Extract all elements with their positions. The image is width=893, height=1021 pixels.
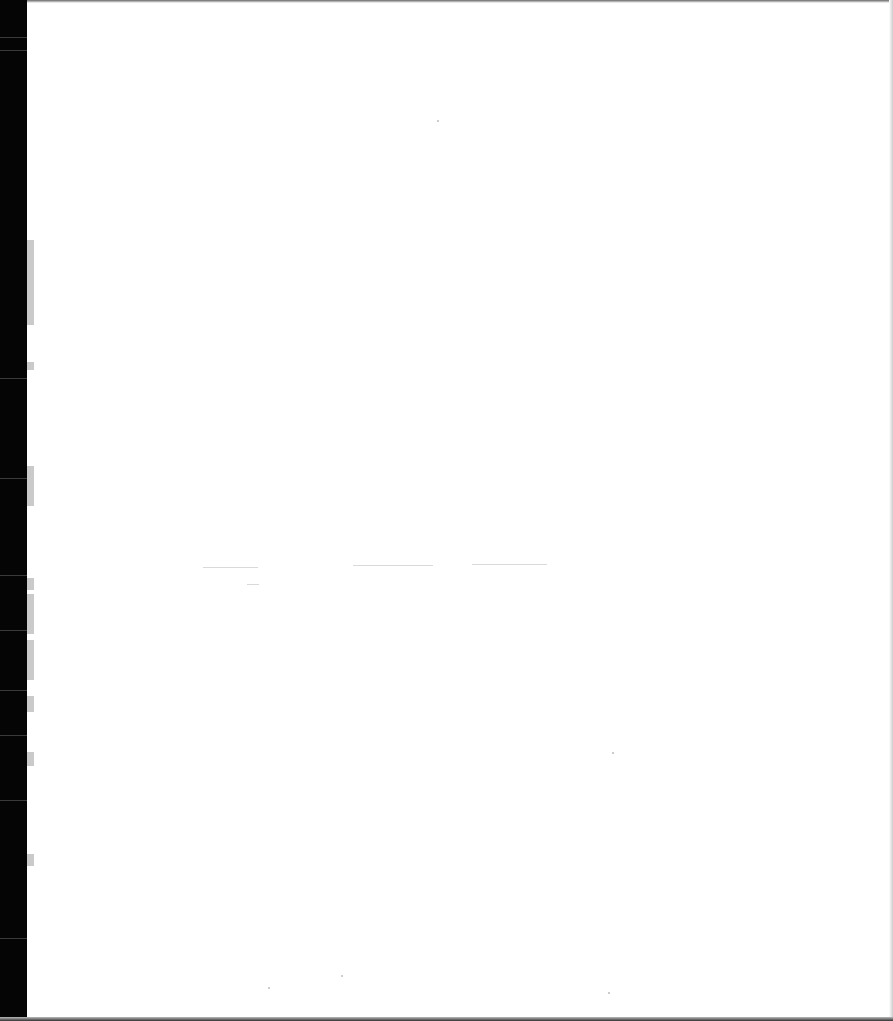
edge-mark — [0, 378, 27, 379]
edge-mark — [0, 575, 27, 576]
margin-tab — [27, 854, 34, 866]
edge-mark — [0, 37, 27, 38]
faint-line — [247, 584, 259, 585]
margin-tab — [27, 578, 34, 590]
margin-tab — [27, 696, 34, 712]
scan-right-edge — [889, 0, 893, 1021]
edge-mark — [0, 630, 27, 631]
faint-line — [353, 565, 433, 566]
edge-mark — [0, 800, 27, 801]
scan-bottom-edge — [0, 1017, 893, 1021]
margin-tab — [27, 752, 34, 766]
scan-speck — [341, 975, 343, 977]
scan-speck — [437, 120, 439, 122]
edge-mark — [0, 735, 27, 736]
scan-speck — [268, 987, 270, 989]
margin-tab — [27, 240, 34, 325]
margin-tab — [27, 362, 34, 370]
scan-top-edge — [27, 0, 893, 3]
edge-mark — [0, 50, 27, 51]
margin-tab — [27, 594, 34, 634]
scan-left-edge — [0, 0, 27, 1021]
margin-tab — [27, 466, 34, 506]
scan-speck — [612, 752, 614, 754]
edge-mark — [0, 478, 27, 479]
edge-mark — [0, 690, 27, 691]
scan-speck — [608, 992, 610, 994]
faint-line — [472, 564, 547, 565]
faint-line — [203, 567, 258, 568]
margin-tab — [27, 640, 34, 680]
edge-mark — [0, 938, 27, 939]
